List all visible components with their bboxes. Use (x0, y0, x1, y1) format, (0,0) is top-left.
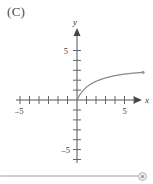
y-axis-label: y (72, 17, 77, 27)
figure-panel: (C) (0, 0, 153, 184)
coordinate-plot: x y –5 5 5 –5 (0, 0, 153, 172)
sqrt-curve (77, 72, 143, 100)
x-axis-label: x (144, 95, 149, 105)
y-axis-arrowhead (74, 28, 81, 36)
x-tick-label-negative-five: –5 (14, 106, 24, 116)
scrollbar-track-line[interactable] (0, 175, 142, 177)
scrollbar-knob[interactable] (138, 172, 147, 181)
x-axis-arrowhead (134, 97, 142, 104)
y-tick-label-negative-five: –5 (61, 145, 71, 155)
curve-endpoint-marker (141, 71, 144, 74)
horizontal-scrollbar[interactable] (0, 172, 153, 180)
y-tick-label-positive-five: 5 (64, 46, 68, 56)
x-tick-label-positive-five: 5 (122, 106, 126, 116)
